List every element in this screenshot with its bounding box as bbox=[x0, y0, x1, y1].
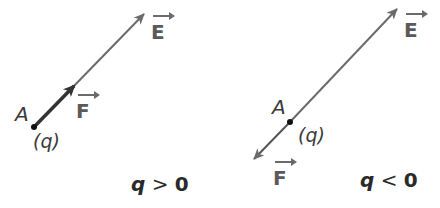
right-condition: q < 0 bbox=[360, 170, 418, 190]
left-field-label: E bbox=[151, 22, 165, 42]
left-force-label: F bbox=[76, 101, 90, 121]
right-field-vector-E bbox=[290, 9, 397, 122]
right-point-label: A bbox=[272, 97, 286, 117]
right-charge-label: (q) bbox=[298, 126, 325, 145]
vector-arrow-icon bbox=[406, 13, 424, 15]
left-charge-label: (q) bbox=[33, 132, 60, 151]
right-field-label: E bbox=[404, 20, 418, 40]
right-force-label: F bbox=[273, 168, 287, 188]
left-point-label: A bbox=[15, 104, 29, 124]
vector-arrow-icon bbox=[78, 94, 96, 96]
left-force-vector-F bbox=[34, 86, 74, 127]
vector-arrow-icon bbox=[275, 161, 293, 163]
right-point-A bbox=[287, 119, 293, 125]
vector-arrow-icon bbox=[153, 15, 171, 17]
right-force-vector-F bbox=[254, 122, 290, 159]
left-condition: q > 0 bbox=[131, 174, 189, 194]
